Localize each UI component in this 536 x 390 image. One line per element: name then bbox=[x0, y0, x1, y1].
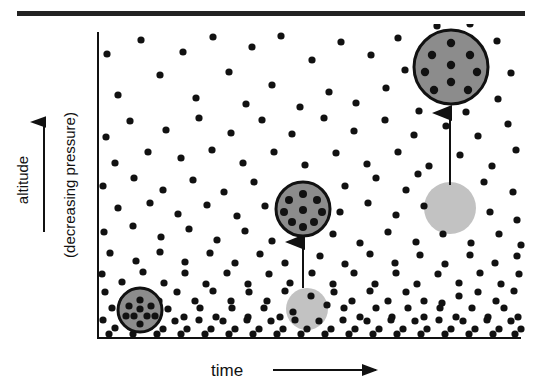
balloon-medium-middle bbox=[276, 182, 330, 236]
ghost-middle-right bbox=[424, 182, 476, 234]
y-axis-label: altitude bbox=[14, 156, 31, 204]
top-rule bbox=[17, 11, 525, 16]
x-axis-label: time bbox=[211, 361, 243, 380]
balloon-large-top-right bbox=[414, 30, 488, 104]
atmosphere-balloon-diagram: altitude (decreasing pressure) time bbox=[0, 0, 536, 390]
balloon-small-bottom-left bbox=[118, 288, 162, 332]
y-axis-sublabel: (decreasing pressure) bbox=[61, 112, 78, 258]
